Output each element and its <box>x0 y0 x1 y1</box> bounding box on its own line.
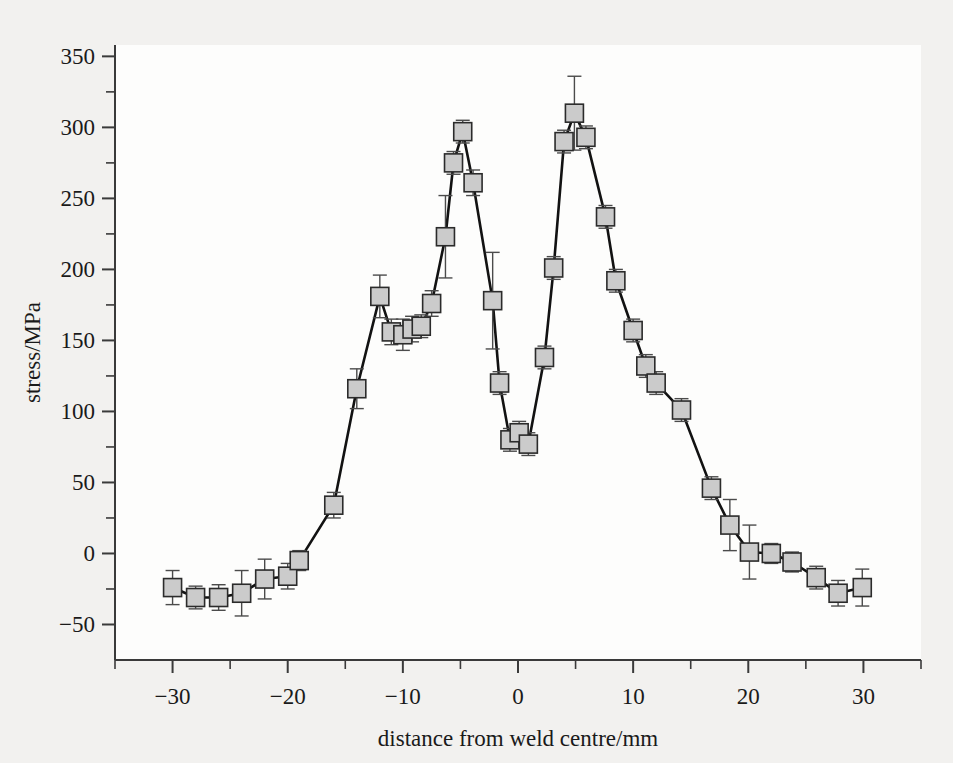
data-point-marker <box>647 374 665 392</box>
data-point-marker <box>445 154 463 172</box>
data-point-marker <box>673 401 691 419</box>
y-axis-title: stress/MPa <box>20 302 45 403</box>
data-point-marker <box>412 317 430 335</box>
data-point-marker <box>637 357 655 375</box>
data-point-marker <box>555 133 573 151</box>
data-point-marker <box>577 128 595 146</box>
data-point-marker <box>290 552 308 570</box>
data-point-marker <box>454 123 472 141</box>
x-tick-label: 20 <box>737 684 760 709</box>
data-point-marker <box>721 516 739 534</box>
data-point-marker <box>423 294 441 312</box>
data-point-marker <box>853 579 871 597</box>
data-point-marker <box>187 589 205 607</box>
data-point-marker <box>491 374 509 392</box>
y-tick-label: 100 <box>61 399 96 424</box>
data-point-marker <box>597 208 615 226</box>
y-tick-label: 150 <box>61 328 96 353</box>
x-tick-label: 30 <box>852 684 875 709</box>
x-tick-label: −20 <box>270 684 306 709</box>
data-point-marker <box>464 174 482 192</box>
data-point-marker <box>210 589 228 607</box>
chart-canvas: −50050100150200250300350 −30−20−10010203… <box>0 0 953 763</box>
y-tick-label: 200 <box>61 257 96 282</box>
y-tick-label: 350 <box>61 44 96 69</box>
y-tick-label: 250 <box>61 186 96 211</box>
x-axis-title: distance from weld centre/mm <box>378 726 658 751</box>
data-point-marker <box>740 543 758 561</box>
data-point-marker <box>783 553 801 571</box>
data-point-marker <box>762 544 780 562</box>
data-point-marker <box>807 569 825 587</box>
data-point-marker <box>545 259 563 277</box>
y-tick-label: −50 <box>59 612 95 637</box>
data-point-marker <box>484 292 502 310</box>
data-point-marker <box>325 496 343 514</box>
data-point-marker <box>702 479 720 497</box>
data-point-marker <box>436 228 454 246</box>
x-tick-label: −10 <box>385 684 421 709</box>
data-point-marker <box>829 584 847 602</box>
x-tick-label: 0 <box>512 684 524 709</box>
data-point-marker <box>256 570 274 588</box>
x-tick-label: −30 <box>155 684 191 709</box>
stress-profile-figure: −50050100150200250300350 −30−20−10010203… <box>0 0 953 763</box>
data-point-marker <box>233 584 251 602</box>
data-point-marker <box>348 380 366 398</box>
y-tick-label: 300 <box>61 115 96 140</box>
data-point-marker <box>519 435 537 453</box>
x-tick-label: 10 <box>622 684 645 709</box>
y-tick-label: 0 <box>84 541 96 566</box>
data-point-marker <box>624 321 642 339</box>
data-point-marker <box>371 287 389 305</box>
data-point-marker <box>565 104 583 122</box>
data-point-marker <box>535 348 553 366</box>
data-point-marker <box>164 579 182 597</box>
data-point-marker <box>607 272 625 290</box>
y-tick-label: 50 <box>72 470 95 495</box>
